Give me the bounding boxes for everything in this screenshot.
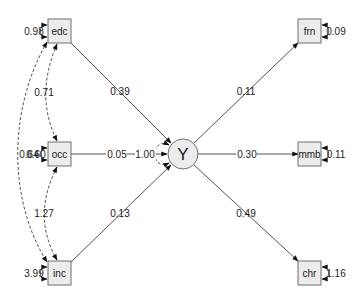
path-inc-Y: 0.13: [71, 165, 171, 262]
node-inc-label: inc: [53, 268, 66, 279]
node-chr: chr: [298, 261, 321, 285]
path-Y-mmb: 0.30: [198, 148, 298, 160]
path-diagram: 0.71 1.27 0.39 0.05 0.13 0.11 0.30 0.49 …: [0, 0, 361, 303]
node-edc: edc: [48, 19, 71, 43]
node-frn-label: frn: [304, 26, 316, 37]
variance-mmb: 0.11: [322, 148, 346, 160]
variance-inc: 3.99: [24, 267, 47, 279]
node-Y: Y: [168, 139, 198, 169]
path-inc-Y-value: 0.13: [110, 208, 130, 219]
node-occ-label: occ: [52, 149, 68, 160]
variance-mmb-value: 0.11: [327, 149, 346, 160]
node-frn: frn: [298, 19, 321, 43]
path-Y-frn-value: 0.11: [237, 86, 256, 97]
variance-edc-value: 0.98: [24, 26, 44, 37]
path-Y-frn: 0.11: [194, 43, 298, 143]
node-edc-label: edc: [51, 26, 67, 37]
variance-Y-value: 1.00: [135, 149, 155, 160]
variance-frn-value: 0.09: [326, 26, 346, 37]
path-edc-Y-value: 0.39: [110, 86, 130, 97]
path-edc-Y: 0.39: [71, 43, 171, 143]
path-Y-mmb-value: 0.30: [237, 149, 257, 160]
variance-occ: 0.60 0.64: [19, 148, 47, 160]
variance-chr: 1.16: [322, 267, 346, 279]
node-mmb-label: mmb: [298, 149, 321, 160]
variance-edc: 0.98: [24, 25, 47, 37]
variance-inc-value: 3.99: [24, 268, 44, 279]
covariance-edc-inc-value: 0.64: [19, 149, 39, 160]
node-chr-label: chr: [303, 268, 318, 279]
covariance-edc-occ: 0.71: [34, 44, 57, 141]
node-Y-label: Y: [177, 145, 188, 164]
covariance-edc-occ-value: 0.71: [34, 87, 54, 98]
path-occ-Y-value: 0.05: [107, 149, 127, 160]
path-Y-chr: 0.49: [194, 165, 298, 261]
variance-frn: 0.09: [322, 25, 346, 37]
covariance-occ-inc-value: 1.27: [34, 208, 54, 219]
path-Y-chr-value: 0.49: [236, 208, 256, 219]
node-mmb: mmb: [298, 142, 321, 166]
node-occ: occ: [48, 142, 71, 166]
node-inc: inc: [48, 261, 71, 285]
variance-chr-value: 1.16: [326, 268, 346, 279]
